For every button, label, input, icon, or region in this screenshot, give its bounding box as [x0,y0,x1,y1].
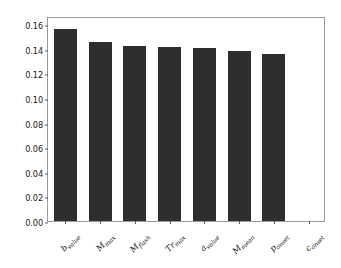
x-tick-mark [309,221,310,224]
y-tick-label: 0.04 [25,169,48,179]
x-tick-label-text: Mmean [230,231,255,256]
x-tick-label-text: Mmax [94,231,116,253]
y-tick-label: 0.12 [25,70,48,80]
x-tick-label: ponset [262,226,291,255]
y-tick-label: 0.02 [25,193,48,203]
x-tick-label-text: Mflash [127,231,150,254]
x-tick-label: Mmean [225,226,256,257]
y-tick-label: 0.16 [25,21,48,31]
x-tick-mark [170,221,171,224]
x-tick-label-text: Trmax [163,231,186,254]
x-tick-mark [274,221,275,224]
x-tick-label-text: ponset [267,231,290,254]
y-tick-label: 0.06 [25,144,48,154]
x-tick-label: Trmax [158,226,187,255]
x-tick-mark [239,221,240,224]
x-tick-label: Mmax [89,226,118,255]
x-tick-label: bvalue [54,226,83,255]
x-tick-label-text: conset [303,231,325,253]
x-tick-label-text: avalue [198,231,220,253]
y-tick-label: 0.00 [25,218,48,228]
bar [123,46,146,221]
x-tick-mark [65,221,66,224]
plot-axes: 0.000.020.040.060.080.100.120.140.16 bva… [47,17,325,222]
y-tick-label: 0.14 [25,46,48,56]
x-tick-mark [135,221,136,224]
x-tick-label: conset [298,226,326,254]
bar [228,51,251,221]
bar [158,47,181,221]
y-tick-label: 0.10 [25,95,48,105]
figure: 0.000.020.040.060.080.100.120.140.16 bva… [0,0,341,268]
x-tick-mark [204,221,205,224]
x-tick-label-text: bvalue [59,231,81,253]
bar [89,42,112,221]
x-tick-label: Mflash [122,226,152,256]
x-tick-label: avalue [193,226,222,255]
x-tick-mark [100,221,101,224]
bar [262,54,285,221]
bar [193,48,216,221]
y-tick-label: 0.08 [25,120,48,130]
bar [54,29,77,221]
